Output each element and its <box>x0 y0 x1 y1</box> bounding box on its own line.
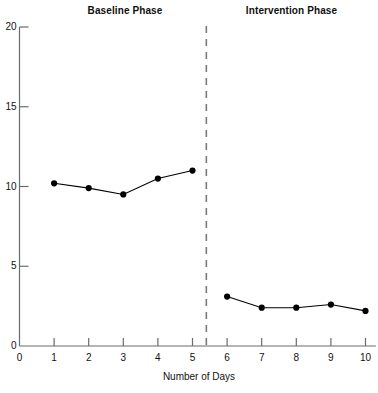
y-tick-label-20: 20 <box>0 21 17 32</box>
x-tick-label-8: 8 <box>284 352 308 363</box>
x-tick-label-6: 6 <box>215 352 239 363</box>
chart-canvas <box>0 0 378 393</box>
x-tick-label-10: 10 <box>354 352 378 363</box>
x-tick-label-0: 0 <box>8 352 32 363</box>
axes-group <box>20 27 376 346</box>
x-tick-label-2: 2 <box>77 352 101 363</box>
y-tick-label-0: 0 <box>0 340 17 351</box>
x-tick-label-9: 9 <box>319 352 343 363</box>
x-tick-label-3: 3 <box>111 352 135 363</box>
x-axis-title: Number of Days <box>0 371 378 382</box>
x-tick-label-5: 5 <box>181 352 205 363</box>
data-series-group <box>51 167 369 314</box>
x-tick-label-1: 1 <box>42 352 66 363</box>
y-tick-label-10: 10 <box>0 181 17 192</box>
x-tick-label-4: 4 <box>146 352 170 363</box>
single-case-design-chart: Baseline Phase Intervention Phase 051015… <box>0 0 378 393</box>
x-tick-label-7: 7 <box>250 352 274 363</box>
y-tick-label-15: 15 <box>0 101 17 112</box>
y-tick-label-5: 5 <box>0 260 17 271</box>
